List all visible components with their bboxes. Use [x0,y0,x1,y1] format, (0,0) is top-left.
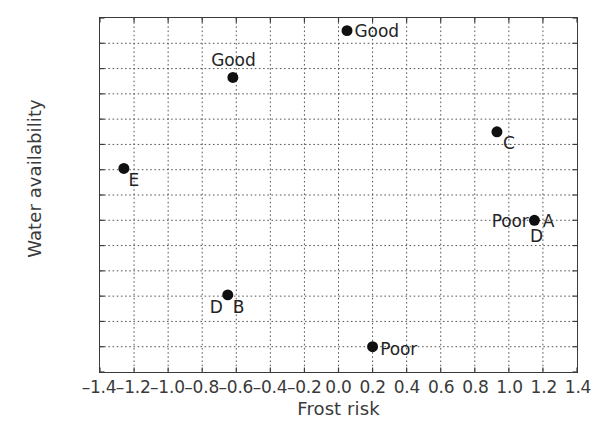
data-point-label: D [210,297,223,317]
data-point-label: Good [355,20,399,40]
y-axis-title: Water availability [24,59,45,299]
data-point[interactable] [367,341,378,352]
data-point-label: Poor [492,211,529,231]
x-tick-label: 1.2 [531,377,557,397]
x-tick-label: 0.6 [428,377,454,397]
data-point-label: Poor [380,338,417,358]
x-tick-label: 0.4 [394,377,420,397]
data-points-layer [100,18,577,372]
x-tick-label: –1.2 [116,377,151,397]
x-tick-label: 0.8 [462,377,488,397]
x-tick-label: 0.2 [359,377,385,397]
x-tick-label: –0.4 [253,377,288,397]
data-point-label: C [503,133,515,153]
x-tick-label: 1.0 [496,377,522,397]
data-point-label: B [233,297,245,317]
data-point[interactable] [342,25,353,36]
data-point-label: Good [211,50,255,70]
data-point-label: D [530,226,543,246]
x-tick-label: 0.0 [325,377,351,397]
x-tick-label: –0.8 [184,377,219,397]
scatter-plot-figure: Water availability Frost risk 1.41.21.00… [0,0,609,428]
data-point[interactable] [222,289,233,300]
data-point-label: E [128,170,139,190]
x-tick-label: –1.4 [82,377,117,397]
data-point[interactable] [227,72,238,83]
x-axis-title: Frost risk [99,398,578,419]
data-point-label: A [543,211,555,231]
x-tick-label: 1.4 [565,377,591,397]
plot-area: GoodGoodCEPoorADDBPoor [99,17,578,373]
data-point[interactable] [491,126,502,137]
x-tick-label: –0.2 [287,377,322,397]
x-tick-label: –1.0 [150,377,185,397]
x-tick-label: –0.6 [218,377,253,397]
data-point[interactable] [529,215,540,226]
